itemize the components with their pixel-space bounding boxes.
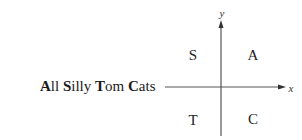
y-axis-arrow-icon [219,20,224,28]
quadrant-diagram: y x S A T C [0,0,302,140]
x-axis-label: x [289,83,294,94]
y-axis-label: y [220,8,225,19]
quadrant-top-right: A [248,48,259,63]
quadrant-top-left: S [189,48,197,63]
x-axis-arrow-icon [278,85,286,90]
quadrant-bottom-right: C [248,112,258,127]
quadrant-bottom-left: T [188,113,197,128]
